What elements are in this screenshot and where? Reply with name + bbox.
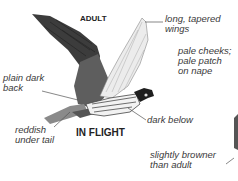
annotation-tail: reddish under tail: [15, 125, 54, 145]
annotation-wings: long, tapered wings: [165, 14, 220, 34]
annotation-back: plain dark back: [3, 73, 44, 93]
annotation-cheeks: pale cheeks; pale patch on nape: [178, 46, 231, 76]
leader-juvenile: [226, 158, 234, 164]
annotation-juvenile: slightly browner than adult: [150, 150, 216, 170]
heading-adult: ADULT: [80, 14, 107, 23]
leader-below: [128, 108, 146, 120]
leader-back: [42, 91, 78, 100]
heading-in-flight: IN FLIGHT: [76, 127, 125, 138]
annotation-below: dark below: [147, 115, 193, 125]
pale-wing: [100, 18, 148, 98]
juvenile-bird-partial: [234, 114, 238, 150]
